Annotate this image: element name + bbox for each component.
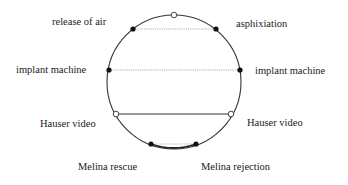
asphixiation-dot: [213, 26, 218, 31]
implant-machine-left-dot: [106, 67, 111, 72]
label-asphixiation: asphixiation: [236, 18, 288, 29]
label-melina-rejection: Melina rejection: [201, 161, 271, 172]
label-melina-rescue: Melina rescue: [78, 161, 138, 172]
release-of-air-dot: [130, 26, 135, 31]
top-open-marker: [171, 12, 177, 18]
main-circle: [107, 15, 241, 149]
chord-diagram: release of air asphixiation implant mach…: [0, 0, 348, 185]
label-implant-machine-left: implant machine: [16, 64, 87, 75]
hauser-video-left-open-marker: [113, 111, 119, 117]
implant-machine-right-dot: [237, 67, 242, 72]
label-implant-machine-right: implant machine: [255, 65, 326, 76]
melina-rejection-dot: [193, 141, 198, 146]
melina-rescue-dot: [148, 141, 153, 146]
label-release-of-air: release of air: [52, 16, 107, 27]
hauser-video-right-open-marker: [228, 111, 234, 117]
label-hauser-video-right: Hauser video: [247, 117, 303, 128]
label-hauser-video-left: Hauser video: [40, 118, 96, 129]
